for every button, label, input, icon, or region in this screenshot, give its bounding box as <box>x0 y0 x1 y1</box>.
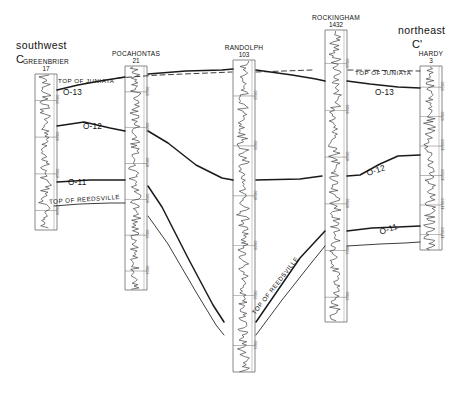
horizon-label: TOP OF JUNIATA <box>355 69 411 76</box>
direction-label-southwest: southwest <box>16 39 67 51</box>
direction-label-northeast: northeast <box>398 24 445 36</box>
depth-label: 8000 <box>55 205 60 215</box>
depth-label: 9000 <box>145 122 150 132</box>
depth-label: 11500 <box>440 228 445 240</box>
marker-label: O-13 <box>63 88 82 97</box>
depth-label: 9000 <box>345 105 350 115</box>
depth-label: 9000 <box>440 111 445 121</box>
well-name: RANDOLPH <box>225 44 264 51</box>
cross-section-figure: southwest northeast C C' 950090008500800… <box>0 0 463 394</box>
depth-label: 9500 <box>345 58 350 68</box>
well-name: GREENBRIER <box>23 58 69 65</box>
depth-label: 8500 <box>145 158 150 168</box>
depth-label: 7500 <box>145 229 150 239</box>
well-number: 3 <box>429 57 433 64</box>
depth-label: 8000 <box>253 240 258 250</box>
well-name: ROCKINGHAM <box>312 14 360 21</box>
well-number: 21 <box>132 57 139 64</box>
correlation-lines <box>54 69 420 335</box>
depth-label: 8000 <box>145 194 150 204</box>
section-label-end: C' <box>412 38 422 50</box>
depth-label: 11000 <box>440 198 445 210</box>
depth-label: 8500 <box>345 151 350 161</box>
depth-label: 8500 <box>253 190 258 200</box>
well-number: 1432 <box>329 21 343 28</box>
depth-label: 7000 <box>145 265 150 275</box>
depth-label: 8000 <box>345 198 350 208</box>
well-number: 17 <box>42 65 49 72</box>
well-name: HARDY <box>419 50 443 57</box>
well-name: POCAHONTAS <box>112 50 160 57</box>
marker-label: O-12 <box>83 122 102 131</box>
marker-label: O-11 <box>68 178 86 187</box>
depth-label: 9000 <box>55 131 60 141</box>
depth-label: 9500 <box>440 81 445 91</box>
depth-label: 10000 <box>440 139 445 151</box>
depth-label: 9000 <box>253 140 258 150</box>
depth-label: 8500 <box>55 168 60 178</box>
horizon-label: TOP OF JUNIATA <box>58 77 114 84</box>
depth-label: 7000 <box>253 340 258 350</box>
marker-label: O-13 <box>375 88 394 97</box>
depth-label: 7000 <box>345 291 350 301</box>
well-number: 103 <box>239 51 250 58</box>
depth-label: 9500 <box>145 86 150 96</box>
depth-label: 10500 <box>440 169 445 181</box>
depth-label: 7500 <box>345 245 350 255</box>
depth-label: 7500 <box>253 290 258 300</box>
depth-label: 9500 <box>55 95 60 105</box>
depth-label: 9500 <box>253 90 258 100</box>
